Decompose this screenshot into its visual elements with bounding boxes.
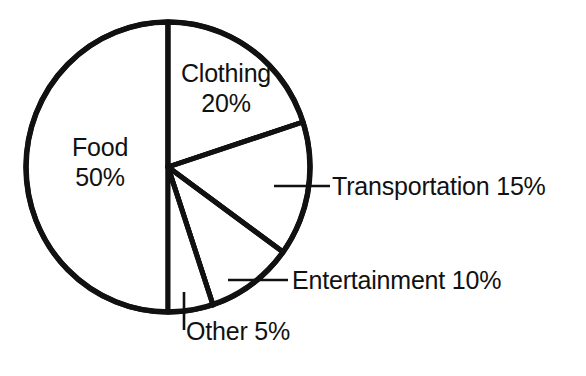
pie-label-food-name: Food — [72, 133, 128, 161]
pie-label-clothing-percent: 20% — [166, 88, 286, 118]
pie-label-entertainment: Entertainment 10% — [292, 265, 501, 295]
pie-label-clothing: Clothing 20% — [166, 58, 286, 118]
pie-label-food-percent: 50% — [46, 162, 154, 192]
pie-chart-figure: Food 50% Clothing 20% Transportation 15%… — [0, 0, 586, 376]
pie-label-food: Food 50% — [46, 132, 154, 192]
pie-label-other: Other 5% — [186, 316, 290, 346]
pie-label-transportation: Transportation 15% — [332, 171, 546, 201]
pie-label-clothing-name: Clothing — [181, 59, 271, 87]
